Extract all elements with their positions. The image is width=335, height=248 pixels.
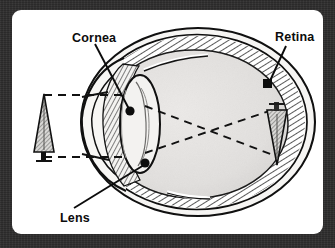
dot-retina — [263, 79, 272, 88]
label-cornea: Cornea — [72, 31, 117, 45]
eye-diagram: Cornea Lens Retina — [12, 10, 323, 234]
dot-lens — [140, 158, 149, 167]
label-lens: Lens — [60, 211, 90, 225]
diagram-card: Cornea Lens Retina — [12, 10, 323, 234]
lens-group — [120, 75, 160, 173]
dot-cornea — [125, 106, 134, 115]
object-arrow — [34, 94, 54, 162]
figure-page: Cornea Lens Retina — [0, 0, 335, 248]
label-retina: Retina — [275, 30, 315, 44]
